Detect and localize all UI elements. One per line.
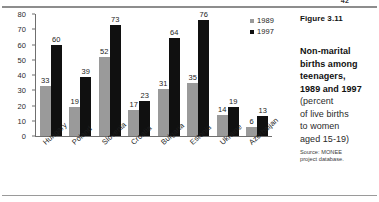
bar-group: 3360: [36, 14, 66, 136]
figure-title-line: Non-marital: [300, 45, 376, 58]
legend-item-1997: 1997: [250, 27, 296, 36]
figure-source: Source: MONEE project database.: [300, 149, 376, 163]
bar-value-label: 64: [170, 28, 179, 37]
x-axis-labels: HungaryPolandSloveniaCroatiaBulgariaEsto…: [36, 138, 272, 188]
legend-label: 1997: [257, 27, 274, 36]
bar-value-label: 33: [41, 76, 50, 85]
y-axis-tick-label: 20: [17, 101, 26, 110]
bar-1997-slovenia[interactable]: [110, 25, 121, 136]
bar-value-label: 14: [218, 105, 227, 114]
figure-source-line: Source: MONEE: [300, 149, 376, 156]
bar-1989-bulgaria[interactable]: [158, 89, 169, 136]
bar-value-label: 31: [159, 79, 168, 88]
bar-value-label: 19: [229, 97, 238, 106]
bar-value-label: 17: [129, 100, 138, 109]
bar-value-label: 6: [250, 117, 254, 126]
figure-caption: Figure 3.11 Non-marital births among tee…: [300, 14, 376, 163]
bar-value-label: 35: [188, 73, 197, 82]
figure-subtitle-line: of live births: [300, 108, 376, 121]
figure-subtitle-line: aged 15-19): [300, 133, 376, 146]
figure-subtitle: (percent of live births to women aged 15…: [300, 95, 376, 145]
y-axis-tick-label: 80: [17, 10, 26, 19]
plot-area: 3360193952731723316435761419613: [36, 14, 272, 136]
figure-subtitle-line: (percent: [300, 95, 376, 108]
y-axis-tick-label: 60: [17, 40, 26, 49]
legend-label: 1989: [257, 16, 274, 25]
figure-source-line: project database.: [300, 156, 376, 163]
bar-group: 1419: [213, 14, 243, 136]
bar-1989-slovenia[interactable]: [99, 57, 110, 136]
y-axis-tick-label: 0: [22, 132, 26, 141]
bar-group: 3164: [154, 14, 184, 136]
figure-title: Non-marital births among teenagers, 1989…: [300, 45, 376, 95]
figure-title-line: teenagers,: [300, 70, 376, 83]
figure-title-line: 1989 and 1997: [300, 83, 376, 96]
bottom-rule: [2, 195, 377, 196]
bar-group: 1723: [125, 14, 155, 136]
bar-1997-estonia[interactable]: [198, 20, 209, 136]
figure-subtitle-line: to women: [300, 120, 376, 133]
bar-chart: 01020304050607080 3360193952731723316435…: [0, 12, 288, 188]
figure-number: Figure 3.11: [300, 14, 376, 23]
x-axis-line: [35, 136, 272, 137]
legend-swatch-icon: [250, 30, 254, 34]
y-axis-tick-label: 40: [17, 71, 26, 80]
top-rule: [2, 6, 377, 8]
figure-title-line: births among: [300, 58, 376, 71]
bar-value-label: 76: [199, 10, 208, 19]
y-axis: 01020304050607080: [0, 12, 34, 136]
bar-value-label: 13: [258, 106, 267, 115]
bar-value-label: 52: [100, 47, 109, 56]
bar-value-label: 39: [81, 67, 90, 76]
y-axis-tick-label: 30: [17, 86, 26, 95]
legend-swatch-icon: [250, 19, 254, 23]
chart-legend: 1989 1997: [250, 16, 296, 38]
bar-1989-estonia[interactable]: [187, 83, 198, 136]
legend-item-1989: 1989: [250, 16, 296, 25]
page-number: 42: [341, 0, 349, 4]
bar-value-label: 60: [52, 35, 61, 44]
bar-value-label: 23: [140, 91, 149, 100]
bar-group: 1939: [66, 14, 96, 136]
bar-group: 3576: [184, 14, 214, 136]
bar-group: 5273: [95, 14, 125, 136]
bar-1989-hungary[interactable]: [40, 86, 51, 136]
y-axis-tick-label: 10: [17, 116, 26, 125]
y-axis-tick-label: 70: [17, 25, 26, 34]
y-axis-tick-label: 50: [17, 55, 26, 64]
figure-page: 42 01020304050607080 3360193952731723316…: [0, 0, 379, 202]
bar-value-label: 19: [70, 97, 79, 106]
bar-value-label: 73: [111, 15, 120, 24]
